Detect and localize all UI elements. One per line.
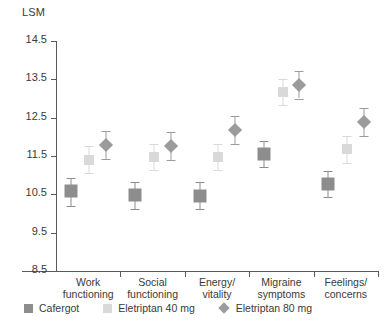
- x-axis-separator: [378, 271, 379, 277]
- x-axis-category-label: Workfunctioning: [56, 276, 120, 300]
- error-bar-cap-upper: [359, 108, 368, 109]
- y-tick-mark: [51, 41, 56, 42]
- y-tick-mark: [51, 271, 56, 272]
- plot-area: 14.513.512.511.510.59.58.5: [56, 41, 378, 271]
- error-bar-cap-lower: [324, 197, 333, 198]
- y-tick-label: 11.5: [26, 148, 47, 160]
- legend-item[interactable]: Cafergot: [24, 302, 79, 314]
- error-bar-cap-lower: [343, 163, 352, 164]
- series-marker-square: [278, 87, 288, 97]
- error-bar-cap-upper: [66, 178, 75, 179]
- error-bar-cap-upper: [260, 141, 269, 142]
- y-axis-title: LSM: [22, 6, 45, 18]
- y-tick-label: 10.5: [26, 186, 47, 198]
- series-marker-diamond: [292, 78, 306, 92]
- x-axis-category-label: Socialfunctioning: [120, 276, 184, 300]
- error-bar-cap-upper: [85, 146, 94, 147]
- y-tick-label: 8.5: [32, 263, 47, 275]
- category-label-line: Feelings/: [314, 276, 378, 288]
- legend-swatch-diamond-icon: [218, 302, 229, 313]
- legend-label: Cafergot: [39, 302, 79, 314]
- error-bar-cap-upper: [149, 144, 158, 145]
- series-marker-square: [129, 189, 142, 202]
- x-axis-category-label: Energy/vitality: [185, 276, 249, 300]
- category-label-line: vitality: [185, 288, 249, 300]
- error-bar-cap-upper: [324, 171, 333, 172]
- chart-legend: CafergotEletriptan 40 mgEletriptan 80 mg: [24, 302, 336, 314]
- x-axis-category-label: Migrainesymptoms: [249, 276, 313, 300]
- error-bar-cap-lower: [231, 144, 240, 145]
- series-marker-diamond: [164, 139, 178, 153]
- series-marker-diamond: [228, 123, 242, 137]
- series-marker-square: [64, 185, 77, 198]
- y-tick-mark: [51, 194, 56, 195]
- x-axis-line: [22, 271, 378, 272]
- category-label-line: concerns: [314, 288, 378, 300]
- error-bar-cap-lower: [214, 170, 223, 171]
- y-tick-label: 9.5: [32, 225, 47, 237]
- y-tick-mark: [51, 156, 56, 157]
- x-axis-category-label: Feelings/concerns: [314, 276, 378, 300]
- series-marker-square: [193, 189, 206, 202]
- category-label-line: functioning: [120, 288, 184, 300]
- error-bar-cap-lower: [260, 167, 269, 168]
- error-bar-cap-lower: [85, 173, 94, 174]
- error-bar-cap-lower: [166, 160, 175, 161]
- legend-label: Eletriptan 40 mg: [118, 302, 194, 314]
- y-tick-mark: [51, 233, 56, 234]
- error-bar-cap-lower: [278, 105, 287, 106]
- legend-swatch-square-icon: [24, 304, 33, 313]
- error-bar-cap-lower: [66, 206, 75, 207]
- y-tick-label: 12.5: [26, 110, 47, 122]
- series-marker-square: [84, 155, 94, 165]
- legend-item[interactable]: Eletriptan 80 mg: [219, 302, 312, 314]
- lsm-chart: LSM 14.513.512.511.510.59.58.5 CafergotE…: [0, 0, 384, 328]
- category-label-line: Migraine: [249, 276, 313, 288]
- error-bar-cap-upper: [214, 144, 223, 145]
- series-marker-diamond: [357, 115, 371, 129]
- series-marker-square: [342, 144, 352, 154]
- error-bar-cap-lower: [131, 209, 140, 210]
- y-tick-mark: [51, 118, 56, 119]
- y-tick-mark: [51, 79, 56, 80]
- error-bar-cap-upper: [166, 132, 175, 133]
- error-bar-cap-upper: [131, 182, 140, 183]
- error-bar-cap-lower: [102, 159, 111, 160]
- error-bar-cap-lower: [149, 170, 158, 171]
- series-marker-square: [258, 148, 271, 161]
- series-marker-square: [213, 152, 223, 162]
- y-tick-label: 14.5: [26, 33, 47, 45]
- error-bar-cap-lower: [295, 99, 304, 100]
- series-marker-square: [322, 177, 335, 190]
- series-marker-diamond: [99, 138, 113, 152]
- category-label-line: Social: [120, 276, 184, 288]
- error-bar-cap-upper: [231, 116, 240, 117]
- y-tick-label: 13.5: [26, 71, 47, 83]
- error-bar-cap-lower: [359, 136, 368, 137]
- category-label-line: Work: [56, 276, 120, 288]
- legend-label: Eletriptan 80 mg: [236, 302, 312, 314]
- error-bar-cap-upper: [295, 71, 304, 72]
- error-bar-cap-upper: [195, 182, 204, 183]
- error-bar-cap-upper: [278, 79, 287, 80]
- legend-item[interactable]: Eletriptan 40 mg: [103, 302, 194, 314]
- category-label-line: symptoms: [249, 288, 313, 300]
- series-marker-square: [149, 152, 159, 162]
- category-label-line: functioning: [56, 288, 120, 300]
- error-bar-cap-lower: [195, 209, 204, 210]
- legend-swatch-square-icon: [103, 304, 112, 313]
- category-label-line: Energy/: [185, 276, 249, 288]
- error-bar-cap-upper: [343, 136, 352, 137]
- error-bar-cap-upper: [102, 131, 111, 132]
